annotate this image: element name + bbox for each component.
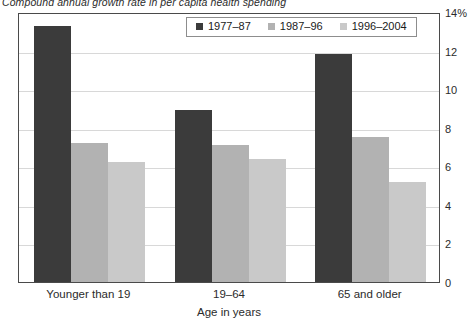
- y-axis-tick-4: 4: [445, 200, 451, 212]
- bar-19-64-series-3: [249, 159, 286, 282]
- bar-younger-than-19-series-2: [71, 143, 108, 282]
- legend-label: 1996–2004: [352, 21, 407, 32]
- x-axis: Younger than 1919–6465 and older: [18, 288, 440, 306]
- chart-legend: 1977–871987–961996–2004: [186, 17, 417, 37]
- plot-area: [18, 13, 440, 283]
- x-axis-tick-3: 65 and older: [338, 288, 402, 300]
- bar-younger-than-19-series-3: [108, 162, 145, 282]
- legend-swatch-icon: [340, 23, 347, 30]
- y-axis-tick-0: 0: [445, 277, 451, 289]
- y-axis-tick-6: 6: [445, 161, 451, 173]
- y-axis-tick-12: 12: [445, 46, 457, 58]
- bar-19-64-series-1: [175, 110, 212, 282]
- legend-swatch-icon: [268, 23, 275, 30]
- y-axis-tick-14: 14%: [445, 7, 467, 19]
- chart-title: Compound annual growth rate in per capit…: [2, 0, 286, 8]
- bars-layer: [19, 14, 439, 282]
- legend-swatch-icon: [196, 23, 203, 30]
- legend-label: 1977–87: [208, 21, 251, 32]
- bar-65-and-older-series-3: [389, 182, 426, 282]
- x-axis-tick-1: Younger than 19: [46, 288, 130, 300]
- legend-item-3: 1996–2004: [340, 21, 407, 32]
- bar-younger-than-19-series-1: [34, 26, 71, 283]
- legend-item-1: 1977–87: [196, 21, 251, 32]
- legend-label: 1987–96: [280, 21, 323, 32]
- legend-item-2: 1987–96: [268, 21, 323, 32]
- y-axis-tick-8: 8: [445, 123, 451, 135]
- x-axis-tick-2: 19–64: [213, 288, 245, 300]
- bar-19-64-series-2: [212, 145, 249, 282]
- y-axis-tick-10: 10: [445, 84, 457, 96]
- y-axis-tick-2: 2: [445, 238, 451, 250]
- x-axis-title: Age in years: [18, 306, 440, 318]
- bar-65-and-older-series-1: [315, 54, 352, 282]
- y-axis: 14%121086420: [445, 0, 475, 320]
- bar-65-and-older-series-2: [352, 137, 389, 282]
